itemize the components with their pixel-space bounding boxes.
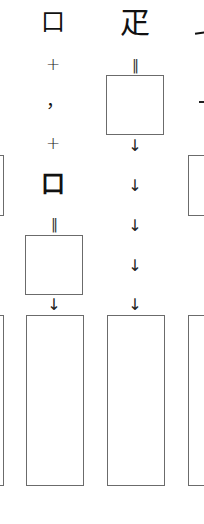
col1-tall-box — [26, 315, 84, 486]
col1-result-box — [25, 235, 83, 295]
col2-tall-box — [107, 315, 165, 486]
left-partial-small-box — [0, 155, 4, 216]
left-partial-tall-box — [0, 315, 4, 486]
col3-stroke-fragment — [199, 101, 204, 103]
col2-down-arrow-icon-2: ↓ — [128, 178, 141, 194]
col2-equals-sign: ‖ — [132, 58, 138, 72]
col2-top-glyph: 疋 — [120, 8, 150, 38]
col3-partial-small-box — [188, 155, 204, 216]
col2-down-arrow-icon-4: ↓ — [128, 258, 141, 274]
col2-down-arrow-icon-1: ↓ — [128, 138, 141, 154]
col2-result-box — [106, 75, 164, 135]
col2-down-arrow-icon-5: ↓ — [128, 297, 141, 313]
col1-plus-operator-2: + — [46, 135, 60, 152]
col3-partial-tall-box — [188, 315, 204, 486]
col1-top-glyph: 口 — [41, 10, 65, 34]
col1-plus-operator-1: + — [46, 56, 60, 73]
col1-equals-sign: ‖ — [51, 217, 57, 231]
col3-top-glyph-fragment — [195, 31, 204, 35]
col1-mouth-component: 口 — [41, 172, 65, 196]
col2-down-arrow-icon-3: ↓ — [128, 218, 141, 234]
col1-down-arrow-icon: ↓ — [47, 297, 60, 313]
col1-stroke-component: ， — [46, 92, 64, 110]
